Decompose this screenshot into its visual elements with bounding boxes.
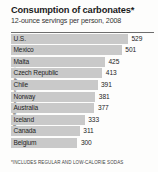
bar-row: Chile391 — [11, 79, 158, 91]
bar-category-label: Norway — [14, 93, 36, 101]
bar-category-label: Iceland — [14, 116, 34, 124]
bar-category-label: U.S. — [14, 35, 26, 43]
bar-category-label: Canada — [14, 127, 36, 135]
bar-category-label: Chile — [14, 81, 28, 89]
bar-value-label: 311 — [83, 127, 93, 135]
bar-value-label: 413 — [106, 69, 117, 77]
bar-value-label: 501 — [125, 46, 136, 54]
bar-category-label: Czech Republic — [14, 69, 59, 77]
bar-row: U.S.529 — [11, 33, 158, 45]
bar-category-label: Mexico — [14, 46, 34, 54]
chart-figure: NGM Art/National Geographic Stock Consum… — [0, 0, 158, 172]
bar-category-label: Malta — [14, 58, 30, 66]
bar-row: Canada311 — [11, 126, 158, 138]
chart-title: Consumption of carbonates* — [11, 5, 158, 16]
bar-row: Mexico501 — [11, 45, 158, 57]
bar-chart-plot: U.S.529Mexico501Malta425Czech Republic41… — [11, 32, 158, 149]
bar-row: Belgium300 — [11, 137, 158, 149]
bar-value-label: 333 — [88, 116, 99, 124]
chart-subtitle: 12-ounce servings per person, 2008 — [11, 17, 158, 26]
bar-category-label: Belgium — [14, 139, 37, 147]
bar-value-label: 300 — [81, 139, 92, 147]
bar-row: Norway381 — [11, 91, 158, 103]
bar-row: Malta425 — [11, 56, 158, 68]
bar-category-label: Australia — [14, 104, 39, 112]
chart-footnote: *INCLUDES REGULAR AND LOW-CALORIE SODAS — [11, 160, 123, 165]
bar-value-label: 381 — [99, 93, 110, 101]
bar-row: Czech Republic413 — [11, 68, 158, 80]
bar-row: Australia377 — [11, 103, 158, 115]
bar-value-label: 425 — [109, 58, 120, 66]
bar-value-label: 391 — [101, 81, 112, 89]
chart-content: Consumption of carbonates* 12-ounce serv… — [11, 0, 158, 172]
bar-rows: U.S.529Mexico501Malta425Czech Republic41… — [11, 33, 158, 149]
bar — [11, 34, 128, 44]
bar-value-label: 377 — [98, 104, 109, 112]
bar-value-label: 529 — [132, 35, 143, 43]
bar-row: Iceland333 — [11, 114, 158, 126]
